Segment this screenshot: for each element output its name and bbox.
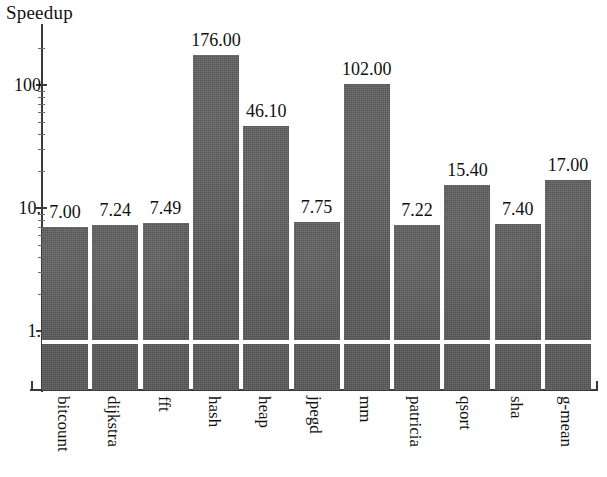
bar-value-label: 15.40: [430, 161, 504, 179]
bar: [243, 126, 289, 390]
x-axis-category-label: fft: [156, 396, 173, 412]
x-axis-category-label: sha: [508, 396, 525, 419]
x-axis-category-label: bitcount: [55, 396, 72, 452]
x-axis-category-label: qsort: [457, 396, 474, 430]
gridline-value-one: [42, 340, 596, 344]
bar-value-label: 7.22: [380, 201, 454, 219]
x-axis-category-label: patricia: [407, 396, 424, 447]
bar-value-label: 176.00: [179, 31, 253, 49]
x-axis-category-label: g-mean: [558, 396, 575, 447]
bar: [92, 225, 138, 390]
bar-value-label: 46.10: [229, 102, 303, 120]
bar: [143, 223, 189, 390]
bar: [344, 84, 390, 390]
bar: [42, 227, 88, 390]
x-axis-category-label: jpegd: [307, 396, 324, 434]
x-axis-category-label: dijkstra: [105, 396, 122, 447]
x-axis-category-label: heap: [256, 396, 273, 428]
bar-chart: Speedup 10010.1. 7.007.247.49176.0046.10…: [0, 0, 607, 477]
bar: [294, 222, 340, 390]
bar: [495, 224, 541, 390]
bar-value-label: 7.49: [129, 199, 203, 217]
x-axis-category-label: hash: [206, 396, 223, 427]
bar: [545, 180, 591, 390]
bar-value-label: 102.00: [330, 60, 404, 78]
bar: [394, 225, 440, 390]
bar-value-label: 7.75: [280, 198, 354, 216]
bar-value-label: 17.00: [531, 156, 605, 174]
bar-value-label: 7.40: [481, 200, 555, 218]
x-axis-category-label: mm: [357, 396, 374, 422]
